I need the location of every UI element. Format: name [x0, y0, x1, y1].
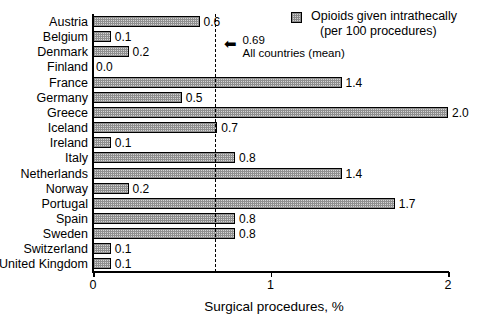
bar-value-label: 0.2 [133, 45, 150, 59]
chart-row: Italy0.8 [0, 150, 480, 166]
category-label: United Kingdom [0, 257, 88, 271]
bar-value-label: 1.4 [346, 167, 363, 181]
chart-row: Ireland0.1 [0, 135, 480, 151]
category-label: Greece [47, 106, 88, 120]
chart-row: Austria0.6 [0, 14, 480, 30]
chart-row: Norway0.2 [0, 181, 480, 197]
category-label: France [49, 76, 88, 90]
chart-row: Germany0.5 [0, 90, 480, 106]
category-label: Belgium [43, 30, 88, 44]
bar [93, 213, 235, 224]
bar-value-label: 0.8 [239, 212, 256, 226]
bar [93, 228, 235, 239]
bar [93, 258, 111, 269]
chart-row: Netherlands1.4 [0, 166, 480, 182]
chart-row: France1.4 [0, 75, 480, 91]
bar [93, 16, 200, 27]
mean-caption: All countries (mean) [242, 47, 344, 60]
bar-chart: Opioids given intrathecally (per 100 pro… [0, 0, 480, 329]
x-axis-tick-label: 0 [90, 278, 97, 292]
chart-row: Spain0.8 [0, 211, 480, 227]
category-label: Ireland [50, 136, 88, 150]
bar [93, 46, 129, 57]
category-label: Sweden [43, 227, 88, 241]
x-axis-tick-label: 2 [445, 278, 452, 292]
chart-row: Finland0.0 [0, 59, 480, 75]
mean-annotation: ⬅ 0.69 All countries (mean) [224, 34, 344, 59]
chart-row: Iceland0.7 [0, 120, 480, 136]
chart-row: Greece2.0 [0, 105, 480, 121]
mean-reference-line [215, 14, 216, 272]
bar [93, 92, 182, 103]
bar [93, 183, 129, 194]
bar-value-label: 0.1 [115, 136, 132, 150]
category-label: Italy [65, 151, 88, 165]
category-label: Finland [47, 60, 88, 74]
bar-value-label: 0.0 [96, 60, 113, 74]
bar-value-label: 0.8 [239, 151, 256, 165]
bar-value-label: 0.8 [239, 227, 256, 241]
category-label: Spain [56, 212, 88, 226]
x-axis-tick [271, 272, 273, 277]
bar-value-label: 2.0 [452, 106, 469, 120]
bar-value-label: 0.5 [186, 91, 203, 105]
bar-value-label: 0.6 [204, 15, 221, 29]
x-axis-tick [448, 272, 450, 277]
chart-row: Sweden0.8 [0, 226, 480, 242]
bar-value-label: 0.1 [115, 257, 132, 271]
left-arrow-icon: ⬅ [224, 37, 237, 50]
category-label: Netherlands [21, 167, 88, 181]
mean-value: 0.69 [242, 34, 344, 47]
bar [93, 243, 111, 254]
bar-value-label: 0.7 [221, 121, 238, 135]
x-axis-title: Surgical procedures, % [0, 299, 480, 314]
category-label: Germany [37, 91, 88, 105]
bar-value-label: 0.2 [133, 182, 150, 196]
chart-row: Switzerland0.1 [0, 241, 480, 257]
mean-annotation-text: 0.69 All countries (mean) [242, 34, 344, 59]
chart-row: Portugal1.7 [0, 196, 480, 212]
category-label: Norway [46, 182, 88, 196]
bar [93, 122, 217, 133]
category-label: Portugal [41, 197, 88, 211]
x-axis-tick [93, 272, 95, 277]
category-label: Iceland [48, 121, 88, 135]
bar-value-label: 1.7 [399, 197, 416, 211]
category-label: Denmark [37, 45, 88, 59]
bar [93, 198, 395, 209]
bar-value-label: 0.1 [115, 30, 132, 44]
bar [93, 137, 111, 148]
bar [93, 152, 235, 163]
bar-value-label: 1.4 [346, 76, 363, 90]
chart-row: United Kingdom0.1 [0, 256, 480, 272]
bar [93, 77, 342, 88]
bar [93, 168, 342, 179]
bar-value-label: 0.1 [115, 242, 132, 256]
bar [93, 31, 111, 42]
category-label: Switzerland [23, 242, 88, 256]
bar [93, 107, 448, 118]
category-label: Austria [49, 15, 88, 29]
x-axis-tick-label: 1 [267, 278, 274, 292]
